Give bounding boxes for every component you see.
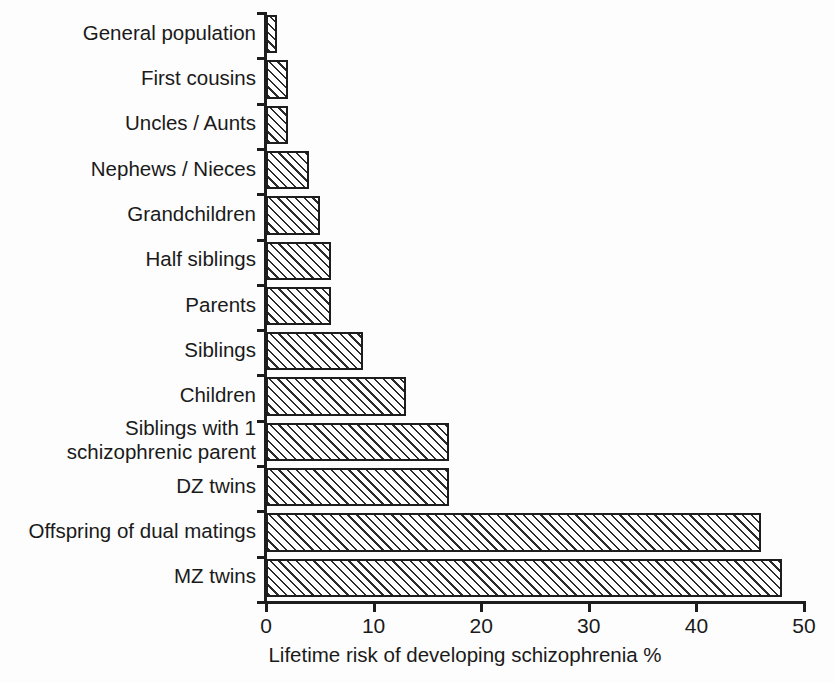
- bar: [266, 287, 331, 325]
- bar-row: [266, 60, 804, 98]
- y-axis-tick: [257, 193, 266, 196]
- bar-row: [266, 196, 804, 234]
- category-label: Offspring of dual matings: [0, 519, 256, 543]
- y-axis-tick: [257, 57, 266, 60]
- bar: [266, 15, 277, 53]
- y-axis-tick: [257, 12, 266, 15]
- category-label-line: Offspring of dual matings: [0, 519, 256, 543]
- category-label: General population: [0, 21, 256, 45]
- y-axis-tick: [257, 374, 266, 377]
- category-label: Siblings: [0, 338, 256, 362]
- bar-row: [266, 15, 804, 53]
- category-label: Siblings with 1schizophrenic parent: [0, 416, 256, 464]
- bar-chart-figure: General populationFirst cousinsUncles / …: [0, 0, 834, 683]
- x-axis-tick: [480, 601, 483, 612]
- category-label-line: schizophrenic parent: [0, 440, 256, 464]
- category-label: Parents: [0, 293, 256, 317]
- bar: [266, 423, 449, 461]
- category-label: Uncles / Aunts: [0, 111, 256, 135]
- category-label-line: First cousins: [0, 66, 256, 90]
- category-label: Children: [0, 383, 256, 407]
- bar: [266, 242, 331, 280]
- x-axis-line: [264, 601, 806, 604]
- bar: [266, 559, 782, 597]
- category-label-line: DZ twins: [0, 474, 256, 498]
- bar: [266, 332, 363, 370]
- category-label-line: MZ twins: [0, 564, 256, 588]
- x-axis-tick-label: 30: [577, 613, 600, 638]
- bar: [266, 513, 761, 551]
- category-label: First cousins: [0, 66, 256, 90]
- category-label-line: General population: [0, 21, 256, 45]
- bar-row: [266, 377, 804, 415]
- x-axis-tick-label: 0: [260, 613, 272, 638]
- x-axis-tick-label: 40: [685, 613, 708, 638]
- category-label: Half siblings: [0, 247, 256, 271]
- x-axis-tick: [265, 601, 268, 612]
- y-axis-line: [264, 12, 267, 603]
- category-label-line: Grandchildren: [0, 202, 256, 226]
- category-label-line: Siblings: [0, 338, 256, 362]
- bar-row: [266, 287, 804, 325]
- bar: [266, 468, 449, 506]
- category-label: DZ twins: [0, 474, 256, 498]
- x-axis-title-text: Lifetime risk of developing schizophreni…: [172, 642, 661, 667]
- category-label: Grandchildren: [0, 202, 256, 226]
- bar: [266, 60, 288, 98]
- x-axis-tick: [373, 601, 376, 612]
- category-label-line: Siblings with 1: [0, 416, 256, 440]
- bar: [266, 151, 309, 189]
- x-axis-tick-label: 20: [470, 613, 493, 638]
- x-axis-tick-label: 50: [792, 613, 815, 638]
- bar-row: [266, 559, 804, 597]
- x-axis-tick: [588, 601, 591, 612]
- y-axis-tick: [257, 556, 266, 559]
- bar-row: [266, 513, 804, 551]
- plot-area: [266, 12, 804, 601]
- y-axis-tick: [257, 465, 266, 468]
- y-axis-tick: [257, 284, 266, 287]
- y-axis-tick: [257, 510, 266, 513]
- bar-row: [266, 332, 804, 370]
- bar-row: [266, 468, 804, 506]
- category-label-line: Children: [0, 383, 256, 407]
- category-label-column: General populationFirst cousinsUncles / …: [0, 0, 256, 683]
- y-axis-tick: [257, 329, 266, 332]
- bar-row: [266, 423, 804, 461]
- bar: [266, 196, 320, 234]
- category-label: Nephews / Nieces: [0, 157, 256, 181]
- category-label-line: Parents: [0, 293, 256, 317]
- y-axis-tick: [257, 103, 266, 106]
- y-axis-tick: [257, 420, 266, 423]
- y-axis-tick: [257, 148, 266, 151]
- x-axis-title: Lifetime risk of developing schizophreni…: [0, 642, 834, 667]
- x-axis-tick-label: 10: [362, 613, 385, 638]
- bar-row: [266, 106, 804, 144]
- x-axis-tick: [695, 601, 698, 612]
- bar-row: [266, 151, 804, 189]
- bar-row: [266, 242, 804, 280]
- category-label-line: Uncles / Aunts: [0, 111, 256, 135]
- category-label: MZ twins: [0, 564, 256, 588]
- category-label-line: Nephews / Nieces: [0, 157, 256, 181]
- bar: [266, 106, 288, 144]
- y-axis-tick: [257, 239, 266, 242]
- bar: [266, 377, 406, 415]
- x-axis-tick: [803, 601, 806, 612]
- category-label-line: Half siblings: [0, 247, 256, 271]
